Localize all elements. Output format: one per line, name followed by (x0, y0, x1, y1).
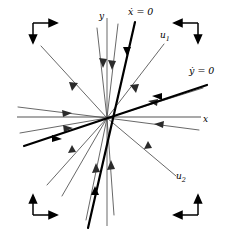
flow-arrow-e-flat (154, 121, 164, 128)
corner-arrow-bottom-left-vertical-head (30, 195, 37, 203)
traj-se-u2 (107, 118, 176, 176)
traj-e-flat (107, 118, 199, 130)
flow-arrow-n-steep (108, 60, 116, 70)
x-axis-label: x (203, 115, 208, 124)
traj-nw-long (41, 46, 107, 118)
corner-arrow-bottom-left-horizontal-head (49, 212, 57, 219)
y-dot-nullcline-label: ẏ = 0 (189, 66, 214, 76)
phase-portrait-figure: x y ẋ = 0 ẏ = 0 u1 u2 (0, 0, 230, 236)
eigendirection-u2-subscript: 2 (182, 176, 186, 184)
eigendirection-u1-subscript: 1 (166, 35, 170, 43)
flow-arrow-nw (69, 82, 78, 91)
corner-arrow-bottom-right (174, 195, 202, 219)
eigendirection-u1-label: u1 (160, 31, 170, 42)
corner-arrow-bottom-left (30, 195, 58, 219)
flow-arrow-s-right (107, 160, 115, 170)
corner-arrow-top-left (30, 20, 58, 44)
corner-arrow-top-left-horizontal-head (49, 20, 57, 27)
corner-arrow-top-right-horizontal-head (174, 20, 182, 27)
x-dot-nullcline-label: ẋ = 0 (128, 7, 153, 17)
y-dot-nullcline-line (24, 85, 207, 146)
flow-arrow-se (144, 141, 152, 149)
flow-arrow-s-left (92, 163, 100, 173)
eigendirection-u2-label: u2 (176, 172, 186, 183)
corner-arrow-top-right (174, 20, 202, 44)
flow-arrow-ne (130, 84, 139, 93)
nullcline-arrow-y-right (152, 93, 162, 100)
corner-arrow-bottom-right-vertical-head (195, 195, 202, 203)
corner-arrow-top-left-vertical-head (30, 35, 37, 43)
trajectories-group (18, 24, 203, 220)
flow-arrow-n-left (99, 58, 107, 68)
axes-group (17, 18, 201, 226)
phase-portrait-canvas (0, 0, 230, 236)
corner-arrow-bottom-right-horizontal-head (174, 212, 182, 219)
corner-arrow-top-right-vertical-head (195, 35, 202, 43)
nullcline-arrow-x-upper (123, 47, 131, 56)
traj-n-left (97, 28, 107, 118)
flow-arrow-sw (68, 145, 76, 153)
y-axis-label: y (99, 12, 104, 21)
flow-arrow-w-upper (62, 110, 72, 117)
